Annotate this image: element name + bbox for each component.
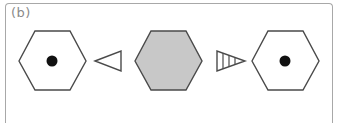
- center-gray-hexagon: [135, 31, 202, 90]
- right-hexagon: [252, 31, 319, 90]
- left-hexagon: [19, 31, 86, 90]
- left-hexagon-dot-icon: [47, 56, 58, 67]
- left-pointing-triangle-icon: [95, 51, 121, 71]
- right-hexagon-dot-icon: [280, 56, 291, 67]
- right-pointing-hatched-triangle-icon: [217, 51, 245, 71]
- diagram-canvas: [0, 0, 339, 123]
